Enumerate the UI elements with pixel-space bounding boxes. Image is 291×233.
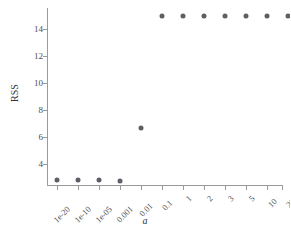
data-point (223, 13, 228, 18)
data-point (76, 178, 81, 183)
x-axis-tick-label: 2 (208, 191, 217, 200)
y-axis-tick-label: 4 (17, 160, 43, 169)
x-axis-tick (282, 186, 283, 190)
y-axis-tick (43, 29, 47, 30)
data-point (139, 125, 144, 130)
x-axis-tick-label: 0.1 (168, 191, 182, 205)
data-point (97, 178, 102, 183)
y-axis-tick (43, 137, 47, 138)
x-axis-tick (120, 186, 121, 190)
x-axis-tick (183, 186, 184, 190)
y-axis-tick-label: 6 (17, 133, 43, 142)
data-point (202, 13, 207, 18)
y-axis-title: RSS (10, 84, 20, 102)
x-axis-tick-label: 5 (250, 191, 259, 200)
x-axis-tick (267, 186, 268, 190)
y-axis-tick (43, 83, 47, 84)
data-point (181, 13, 186, 18)
x-axis-tick (99, 186, 100, 190)
x-axis-tick (78, 186, 79, 190)
x-axis-tick (141, 186, 142, 190)
y-axis-tick-label: 14 (17, 25, 43, 34)
y-axis-tick-label: 12 (17, 52, 43, 61)
x-axis-line (47, 185, 283, 186)
x-axis-tick-label: 1 (187, 191, 196, 200)
x-axis-tick (246, 186, 247, 190)
data-point (160, 13, 165, 18)
y-axis-line (47, 8, 48, 185)
y-axis-tick-label: 10 (17, 79, 43, 88)
x-axis-tick (57, 186, 58, 190)
x-axis-title: a (0, 216, 290, 226)
y-axis-tick-label: 8 (17, 106, 43, 115)
y-axis-tick (43, 164, 47, 165)
data-point (55, 178, 60, 183)
x-axis-tick (204, 186, 205, 190)
data-point (286, 13, 291, 18)
y-axis-tick (43, 56, 47, 57)
data-point (265, 13, 270, 18)
x-axis-tick-label: 3 (229, 191, 238, 200)
x-axis-tick (162, 186, 163, 190)
x-axis-tick (225, 186, 226, 190)
data-point (244, 13, 249, 18)
data-point (118, 178, 123, 183)
y-axis-tick (43, 110, 47, 111)
scatter-chart: 4 6 8 10 12 14 1e-20 1e-10 1e-05 0.001 0… (0, 0, 290, 233)
